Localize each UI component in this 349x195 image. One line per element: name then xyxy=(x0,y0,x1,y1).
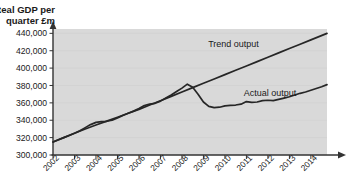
y-tick-label: 320,000 xyxy=(16,133,47,143)
y-tick-label: 360,000 xyxy=(16,98,47,108)
y-tick-label: 400,000 xyxy=(16,63,47,73)
axis-title-group: Real GDP per quarter £m xyxy=(0,4,55,26)
axis-title-line-1: Real GDP per xyxy=(0,4,55,15)
y-tick-label: 440,000 xyxy=(16,28,47,38)
axis-title-line-2: quarter £m xyxy=(6,15,55,26)
y-tick-label: 300,000 xyxy=(16,150,47,160)
x-tick-label: 2011 xyxy=(234,153,254,173)
annotation-actual-output: Actual output xyxy=(244,88,297,98)
y-tick-label: 340,000 xyxy=(16,115,47,125)
y-tick-label: 380,000 xyxy=(16,81,47,91)
x-axis-arrowhead xyxy=(338,152,346,159)
y-axis-tick-labels: 300,000320,000340,000360,000380,000400,0… xyxy=(16,28,47,160)
gdp-output-gap-chart: 300,000320,000340,000360,000380,000400,0… xyxy=(0,0,349,195)
annotation-trend-output: Trend output xyxy=(208,39,259,49)
chart-canvas: 300,000320,000340,000360,000380,000400,0… xyxy=(0,0,349,195)
y-tick-label: 420,000 xyxy=(16,46,47,56)
